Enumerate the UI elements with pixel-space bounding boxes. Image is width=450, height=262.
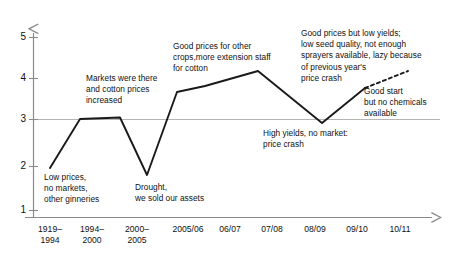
annotation-good-prices-other-crops: Good prices for other crops,more extensi…: [173, 41, 271, 75]
annotation-good-prices-low-yields: Good prices but low yields; low seed qua…: [301, 28, 422, 84]
annotation-good-start: Good start but no chemicals available: [364, 86, 427, 120]
y-tick-label-5: 5: [10, 31, 26, 42]
annotation-high-yields-no-market: High yields, no market: price crash: [263, 128, 348, 150]
annotation-low-prices: Low prices, no markets, other ginneries: [44, 172, 99, 206]
annotation-drought: Drought, we sold our assets: [135, 182, 204, 204]
line-chart: 5 4 3 2 1 1919– 1994 1994– 2000 2000– 20…: [0, 0, 450, 262]
x-tick-label-2000-2005: 2000– 2005: [110, 224, 164, 247]
y-tick-label-3: 3: [10, 113, 26, 124]
y-tick-label-2: 2: [10, 160, 26, 171]
y-tick-label-1: 1: [10, 204, 26, 215]
x-tick-label-10-11: 10/11: [373, 224, 427, 235]
y-tick-label-4: 4: [10, 72, 26, 83]
annotation-markets-were-there: Markets were there and cotton prices inc…: [86, 73, 157, 107]
